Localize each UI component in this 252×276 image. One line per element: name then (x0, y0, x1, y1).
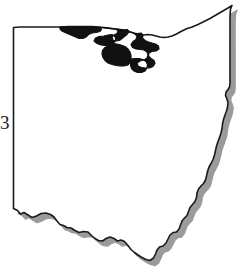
ohio-map-graphic (0, 0, 252, 276)
ohio-state-outline (14, 6, 233, 261)
figure-number-label: 3 (0, 112, 14, 134)
figure-container: 3 (0, 0, 252, 276)
